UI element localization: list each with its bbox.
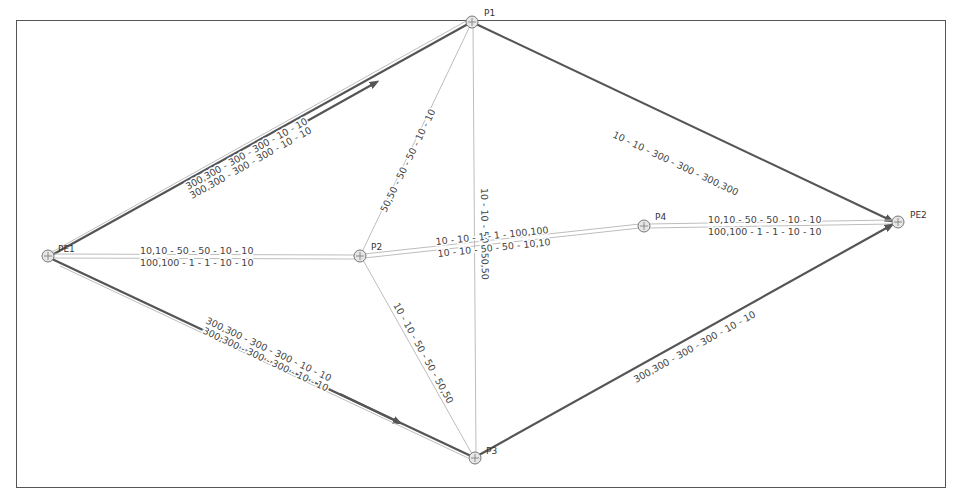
node-label-p4: P4 — [655, 212, 666, 222]
node-pe1[interactable] — [42, 250, 54, 262]
node-p2[interactable] — [354, 250, 366, 262]
edge-label-pe1-p3-b: 300,300 - 300 - 300 - 10 - 10 — [201, 325, 330, 394]
edge-label-p4-pe2-a: 10,10 - 50 - 50 - 10 - 10 — [708, 214, 821, 225]
edge-label-pe1-p2-a: 10,10 - 50 - 50 - 10 - 10 — [140, 245, 253, 256]
edge-labels: 300,300 - 300 - 300 - 10 - 10 300,300 - … — [140, 107, 821, 405]
edge-label-pe1-p1-a: 300,300 - 300 - 300 - 10 - 10 — [184, 115, 310, 191]
edge-label-pe1-p3-a: 300,300 - 300 - 300 - 10 - 10 — [204, 315, 333, 384]
edge-pe1-p1-thin[interactable] — [52, 20, 468, 252]
node-p1[interactable] — [466, 16, 478, 28]
edge-label-pe1-p1-b: 300,300 - 300 - 300 - 10 - 10 — [188, 124, 314, 200]
node-label-pe1: PE1 — [58, 244, 75, 254]
node-p4[interactable] — [638, 220, 650, 232]
edge-label-p2-p3: 10 - 10 - 50 - 50 - 50,50 — [391, 301, 456, 406]
arrow-pe1-p1 — [300, 83, 375, 125]
edge-label-p2-p1: 50,50 - 50 - 50 - 10 - 10 — [378, 107, 438, 214]
edge-p1-pe2[interactable] — [476, 24, 890, 220]
edge-label-pe1-p2-b: 100,100 - 1 - 1 - 10 - 10 — [140, 257, 253, 268]
node-label-pe2: PE2 — [910, 210, 927, 220]
edge-label-p3-pe2: 300,300 - 300 - 300 - 10 - 10 — [632, 308, 758, 384]
node-label-p1: P1 — [484, 8, 495, 18]
edge-p2-p3[interactable] — [363, 260, 472, 454]
arrow-pe1-p3 — [340, 394, 398, 422]
network-topology-diagram: 300,300 - 300 - 300 - 10 - 10 300,300 - … — [0, 0, 968, 502]
edge-label-p4-pe2-b: 100,100 - 1 - 1 - 10 - 10 — [708, 226, 821, 237]
node-p3[interactable] — [469, 452, 481, 464]
node-label-p3: P3 — [486, 446, 497, 456]
node-pe2[interactable] — [892, 216, 904, 228]
edge-p3-pe2[interactable] — [479, 226, 890, 455]
node-label-p2: P2 — [371, 242, 382, 252]
